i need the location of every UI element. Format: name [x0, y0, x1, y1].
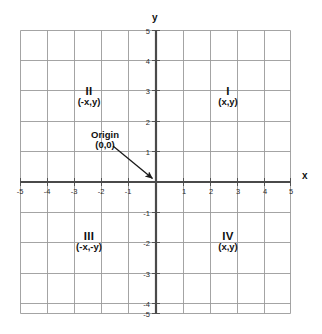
quadrant-i-coords: (x,y)	[218, 96, 238, 107]
x-tick-label--5: -5	[17, 187, 24, 196]
y-tick-label--5: -5	[134, 310, 150, 319]
y-tick-label--1: -1	[134, 209, 150, 218]
x-tick-label-4: 4	[263, 187, 267, 196]
coordinate-plane-svg	[0, 0, 322, 334]
quadrant-label-iv: IV (x,y)	[218, 230, 238, 252]
x-tick-label-2: 2	[209, 187, 213, 196]
y-tick-label--4: -4	[134, 300, 150, 309]
x-tick-label--4: -4	[44, 187, 51, 196]
y-tick-label--3: -3	[134, 270, 150, 279]
y-tick-label-5: 5	[138, 27, 150, 36]
quadrant-label-i: I (x,y)	[218, 85, 238, 107]
x-tick-label--3: -3	[71, 187, 78, 196]
y-tick-label--2: -2	[134, 239, 150, 248]
y-tick-label-2: 2	[138, 118, 150, 127]
quadrant-label-iii: III (-x,-y)	[76, 230, 102, 252]
y-axis-label: y	[152, 12, 158, 23]
quadrant-ii-coords: (-x,y)	[78, 96, 101, 107]
x-tick-label--2: -2	[98, 187, 105, 196]
origin-annotation: Origin (0,0)	[91, 129, 119, 150]
quadrant-iii-coords: (-x,-y)	[76, 241, 102, 252]
x-tick-label-5: 5	[289, 187, 293, 196]
quadrant-iv-coords: (x,y)	[218, 241, 238, 252]
y-tick-label-4: 4	[138, 57, 150, 66]
y-tick-label-3: 3	[138, 87, 150, 96]
x-tick-label-3: 3	[236, 187, 240, 196]
x-tick-label-1: 1	[182, 187, 186, 196]
y-tick-label-1: 1	[138, 148, 150, 157]
x-axis-label: x	[302, 170, 308, 181]
coordinate-plane-diagram: x y -5 -4 -3 -2 -1 1 2 3 4 5 5 4 3 2 1 -…	[0, 0, 322, 334]
x-tick-label--1: -1	[125, 187, 132, 196]
origin-coords: (0,0)	[91, 139, 119, 150]
quadrant-label-ii: II (-x,y)	[78, 85, 101, 107]
